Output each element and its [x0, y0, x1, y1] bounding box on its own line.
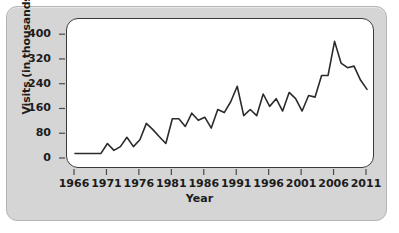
- y-tick-label: 160: [17, 102, 51, 113]
- y-tick-label: 400: [17, 28, 51, 39]
- x-tick-label: 2011: [346, 178, 386, 189]
- y-tick-label: 240: [17, 78, 51, 89]
- y-tick-label: 80: [17, 127, 51, 138]
- line-series-visits: [67, 19, 374, 168]
- data-line: [75, 41, 367, 153]
- y-tick-label: 320: [17, 53, 51, 64]
- chart-figure: Visits (in thousands) 080160240320400 19…: [0, 0, 399, 233]
- y-tick-label: 0: [17, 152, 51, 163]
- plot-area: [66, 18, 374, 168]
- x-axis-label: Year: [0, 192, 399, 205]
